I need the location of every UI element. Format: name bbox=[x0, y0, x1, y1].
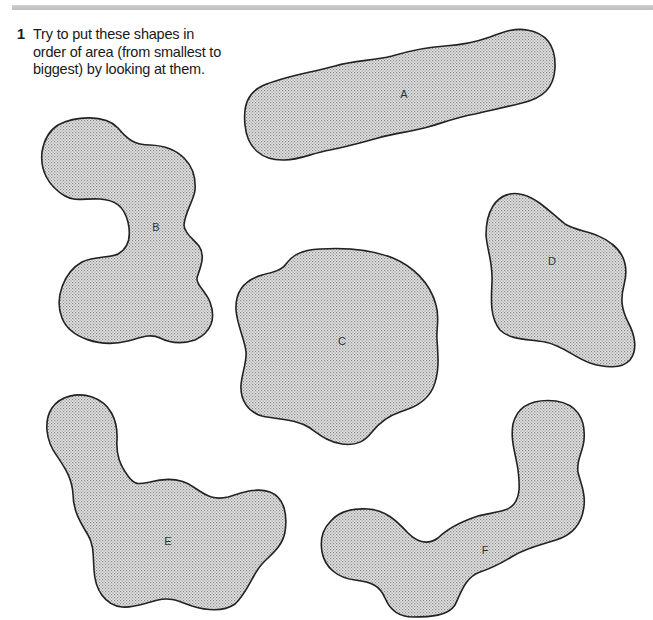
shape-label-a: A bbox=[400, 88, 407, 100]
shape-label-f: F bbox=[482, 544, 489, 556]
shape-label-e: E bbox=[164, 535, 171, 547]
shape-b bbox=[42, 118, 213, 343]
shape-label-b: B bbox=[152, 221, 159, 233]
shape-d bbox=[486, 193, 635, 366]
shape-label-d: D bbox=[548, 255, 556, 267]
shape-c bbox=[236, 248, 438, 444]
shape-e bbox=[47, 395, 286, 610]
shape-label-c: C bbox=[338, 335, 346, 347]
shapes-canvas bbox=[0, 0, 653, 620]
